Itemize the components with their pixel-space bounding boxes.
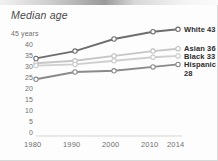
legend-label-hispanic: Hispanic [184, 60, 216, 69]
series-line-hispanic [36, 64, 178, 79]
x-tick-1990: 1990 [63, 140, 81, 149]
series-line-white [36, 29, 178, 58]
chart-card: Median age 45 years 40 35 30 25 20 15 10… [0, 0, 218, 161]
legend-value-hispanic: 28 [184, 69, 193, 78]
top-decorative-bar [0, 0, 218, 5]
x-tick-2010: 2010 [141, 140, 159, 149]
x-tick-2014: 2014 [167, 140, 185, 149]
chart-title: Median age [11, 9, 68, 21]
chart-plot-area: 45 years 40 35 30 25 20 15 10 5 0 [0, 24, 218, 161]
x-tick-1980: 1980 [24, 140, 42, 149]
legend-label-white: White 43 [184, 25, 216, 34]
x-tick-2000: 2000 [102, 140, 120, 149]
